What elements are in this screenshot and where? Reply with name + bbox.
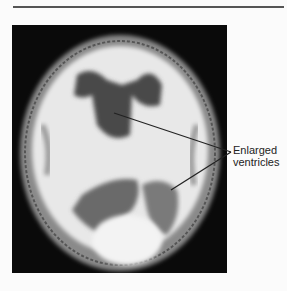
annotation-line1: Enlarged bbox=[233, 144, 279, 156]
annotation-label: Enlarged ventricles bbox=[233, 144, 279, 168]
annotation-line2: ventricles bbox=[233, 156, 279, 168]
